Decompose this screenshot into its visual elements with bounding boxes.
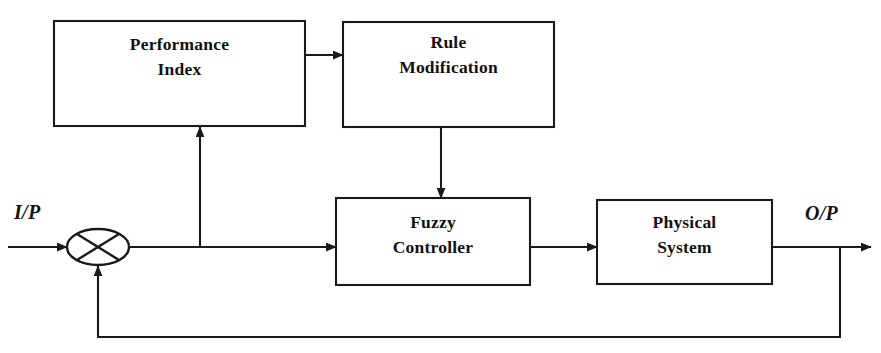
block-diagram-svg: Performance Index Rule Modification Fuzz… — [0, 0, 881, 353]
block-fuzzy-controller[interactable]: Fuzzy Controller — [336, 198, 530, 285]
input-label: I/P — [13, 201, 41, 223]
fuzzy-controller-label-line1: Fuzzy — [410, 212, 456, 232]
physical-system-label-line2: System — [657, 237, 712, 257]
rule-modification-label-line1: Rule — [431, 32, 467, 52]
block-rule-modification[interactable]: Rule Modification — [343, 22, 554, 127]
block-diagram-canvas: Performance Index Rule Modification Fuzz… — [0, 0, 881, 353]
output-label: O/P — [805, 202, 839, 224]
physical-system-label-line1: Physical — [653, 212, 717, 232]
summing-junction — [67, 229, 129, 265]
fuzzy-controller-label-line2: Controller — [393, 237, 473, 257]
performance-index-label-line1: Performance — [130, 34, 229, 54]
block-performance-index[interactable]: Performance Index — [54, 21, 305, 126]
rule-modification-label-line2: Modification — [399, 57, 498, 77]
performance-index-label-line2: Index — [158, 59, 202, 79]
block-physical-system[interactable]: Physical System — [597, 200, 772, 284]
